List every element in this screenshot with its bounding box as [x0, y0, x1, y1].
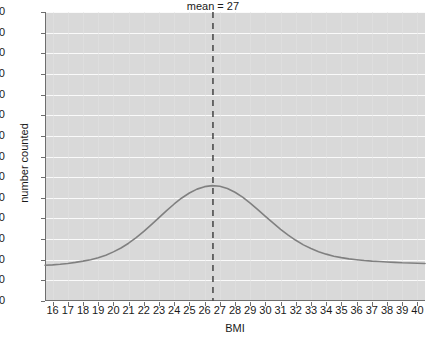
y-tick-mark: [41, 136, 45, 137]
x-tick-mark: [311, 302, 312, 306]
y-tick-label: 20: [0, 254, 5, 265]
y-tick-mark: [41, 74, 45, 75]
x-tick-mark: [387, 302, 388, 306]
x-tick-mark: [402, 302, 403, 306]
y-tick-label: 70: [0, 151, 5, 162]
y-tick-mark: [41, 157, 45, 158]
y-tick-mark: [41, 53, 45, 54]
y-tick-label: 10: [0, 274, 5, 285]
y-tick-label: 90: [0, 109, 5, 120]
x-axis-label: BMI: [45, 322, 425, 334]
y-tick-mark: [41, 239, 45, 240]
x-tick-mark: [281, 302, 282, 306]
x-tick-mark: [68, 302, 69, 306]
x-tick-mark: [98, 302, 99, 306]
y-tick-label: 0: [0, 295, 5, 306]
y-tick-label: 60: [0, 171, 5, 182]
y-tick-label: 80: [0, 130, 5, 141]
mean-annotation-label: mean = 27: [153, 0, 273, 12]
y-tick-label: 120: [0, 47, 5, 58]
y-tick-mark: [41, 115, 45, 116]
x-tick-mark: [159, 302, 160, 306]
y-tick-mark: [41, 301, 45, 302]
x-tick-mark: [220, 302, 221, 306]
x-tick-mark: [144, 302, 145, 306]
x-tick-mark: [326, 302, 327, 306]
y-tick-mark: [41, 218, 45, 219]
y-tick-label: 40: [0, 212, 5, 223]
x-tick-label: 40: [405, 305, 429, 316]
x-tick-mark: [189, 302, 190, 306]
y-axis-label: number counted: [18, 93, 30, 233]
y-tick-mark: [41, 33, 45, 34]
x-tick-mark: [341, 302, 342, 306]
y-tick-mark: [41, 177, 45, 178]
y-tick-mark: [41, 198, 45, 199]
x-tick-mark: [250, 302, 251, 306]
bmi-distribution-chart: mean = 27 number counted BMI 01020304050…: [0, 0, 441, 350]
x-tick-mark: [235, 302, 236, 306]
mean-reference-line: [0, 0, 441, 350]
y-tick-label: 110: [0, 68, 5, 79]
y-tick-label: 50: [0, 192, 5, 203]
y-tick-label: 100: [0, 89, 5, 100]
y-tick-label: 30: [0, 233, 5, 244]
y-tick-mark: [41, 12, 45, 13]
y-tick-mark: [41, 95, 45, 96]
x-tick-mark: [129, 302, 130, 306]
x-tick-mark: [83, 302, 84, 306]
x-tick-mark: [174, 302, 175, 306]
x-tick-mark: [205, 302, 206, 306]
y-tick-label: 140: [0, 6, 5, 17]
x-tick-mark: [296, 302, 297, 306]
x-tick-mark: [265, 302, 266, 306]
x-tick-mark: [113, 302, 114, 306]
y-tick-mark: [41, 260, 45, 261]
x-tick-mark: [357, 302, 358, 306]
x-tick-mark: [53, 302, 54, 306]
x-tick-mark: [372, 302, 373, 306]
x-tick-mark: [417, 302, 418, 306]
y-tick-label: 130: [0, 27, 5, 38]
y-tick-mark: [41, 280, 45, 281]
